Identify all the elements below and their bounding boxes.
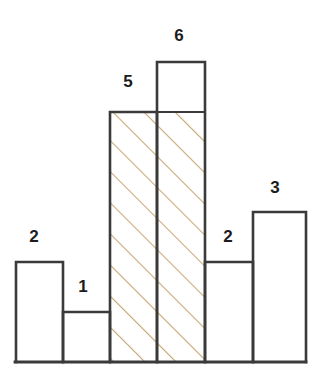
bar-outline-bin-5 [205, 262, 253, 362]
bar-outline-bin-2 [63, 312, 110, 362]
bar-value-label-bin-6: 3 [255, 179, 295, 196]
bar-value-label-bin-3: 5 [108, 73, 148, 90]
bar-value-label-bin-1: 2 [14, 228, 54, 245]
bar-value-label-bin-2: 1 [63, 278, 103, 295]
bar-outline-bin-6 [253, 212, 306, 362]
bar-outline-bin-1 [16, 262, 63, 362]
histogram-figure: 2 1 5 6 2 3 [0, 0, 323, 376]
bar-value-label-bin-5: 2 [208, 228, 248, 245]
bar-value-label-bin-4: 6 [159, 27, 199, 44]
